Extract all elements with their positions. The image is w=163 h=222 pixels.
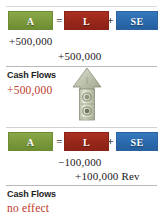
liabilities-amount-block-1: +500,000 [58,50,102,62]
money-up-arrow-icon [72,66,102,122]
assets-amount-block-1: +500,000 [9,35,53,47]
accounting-equation-figure: A = L + SE +500,000 +500,000 Cash Flows … [0,0,163,222]
liabilities-amount-block-2: −100,000 [58,156,102,168]
cash-flows-label-block-2: Cash Flows [7,189,56,199]
assets-box: A [8,132,53,151]
equation-row-block-1: A = L + SE [0,11,163,30]
assets-box: A [8,11,53,30]
stockholders-equity-box: SE [116,11,158,30]
liabilities-box: L [64,11,109,30]
liabilities-box: L [64,132,109,151]
equation-row-block-2: A = L + SE [0,132,163,151]
cash-flows-label-block-1: Cash Flows [7,70,56,80]
plus-symbol: + [105,11,116,30]
divider-cash-flows-block-2 [6,185,157,186]
divider-top [6,6,157,7]
cash-flows-value-block-2: no effect [7,202,49,214]
divider-between-blocks [6,127,157,128]
plus-symbol: + [105,132,116,151]
cash-flows-value-block-1: +500,000 [7,84,52,96]
equity-amount-block-2: +100,000 Rev [75,170,140,182]
stockholders-equity-box: SE [116,132,158,151]
